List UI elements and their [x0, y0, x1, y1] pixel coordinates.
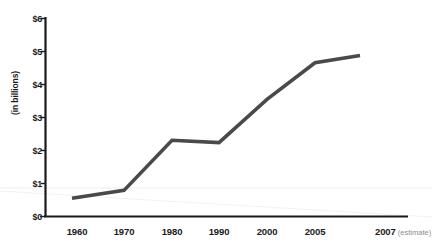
x-tick-label-1990: 1990 — [209, 226, 230, 237]
x-tick-label-2007-year: 2007 — [375, 226, 396, 237]
x-tick-label-1980: 1980 — [162, 226, 183, 237]
y-tick-label-4: $4 — [14, 80, 42, 90]
y-tick-label-5: $5 — [14, 47, 42, 57]
y-tick-label-6: $6 — [14, 14, 42, 24]
x-tick-label-1970: 1970 — [114, 226, 135, 237]
x-tick-label-2000: 2000 — [257, 226, 278, 237]
series-polyline — [72, 56, 360, 199]
chart-container: (in billions) $0 $1 $2 $3 $4 $5 $6 1960 … — [0, 0, 432, 249]
x-tick-label-2007-note: (estimate) — [396, 228, 431, 237]
y-tick-label-1: $1 — [14, 179, 42, 189]
y-tick-label-0: $0 — [14, 212, 42, 222]
x-tick-label-2007: 2007 (estimate) — [375, 226, 431, 237]
y-axis-labels: $0 $1 $2 $3 $4 $5 $6 — [0, 0, 42, 249]
axis-lines — [44, 17, 408, 217]
x-tick-label-2005: 2005 — [305, 226, 326, 237]
y-tick-label-3: $3 — [14, 113, 42, 123]
plot-area — [0, 0, 432, 249]
y-tick-label-2: $2 — [14, 146, 42, 156]
data-series-line — [72, 56, 360, 199]
x-tick-label-1960: 1960 — [67, 226, 88, 237]
